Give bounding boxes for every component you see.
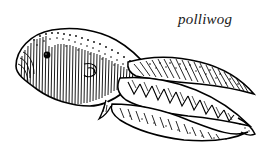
eye-icon <box>44 52 51 59</box>
figure-caption: polliwog <box>178 8 248 30</box>
eye-highlight <box>45 53 47 55</box>
figure-container: polliwog <box>0 0 265 161</box>
